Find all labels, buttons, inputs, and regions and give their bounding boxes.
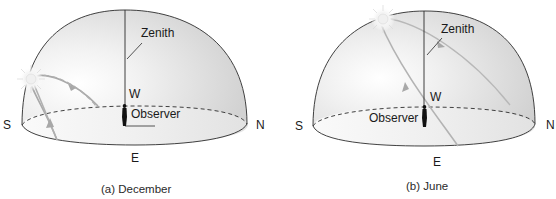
label-south: S bbox=[3, 118, 11, 132]
label-west: W bbox=[129, 87, 141, 101]
label-west: W bbox=[430, 90, 442, 104]
label-east: E bbox=[433, 155, 441, 169]
celestial-sphere-diagram: S N E W Zenith Observer (a) December bbox=[0, 0, 556, 199]
sun-icon bbox=[369, 5, 397, 33]
panel-june: S N E W Zenith Observer (b) June bbox=[295, 5, 555, 192]
label-south: S bbox=[295, 119, 303, 133]
label-zenith: Zenith bbox=[141, 26, 174, 40]
label-zenith: Zenith bbox=[441, 22, 474, 36]
panel-december: S N E W Zenith Observer (a) December bbox=[3, 10, 265, 195]
label-observer: Observer bbox=[131, 107, 180, 121]
label-north: N bbox=[546, 118, 555, 132]
label-observer: Observer bbox=[369, 111, 418, 125]
label-north: N bbox=[256, 118, 265, 132]
caption-december: (a) December bbox=[101, 183, 171, 195]
caption-june: (b) June bbox=[406, 180, 448, 192]
label-east: E bbox=[131, 151, 139, 165]
sun-icon bbox=[17, 65, 45, 93]
